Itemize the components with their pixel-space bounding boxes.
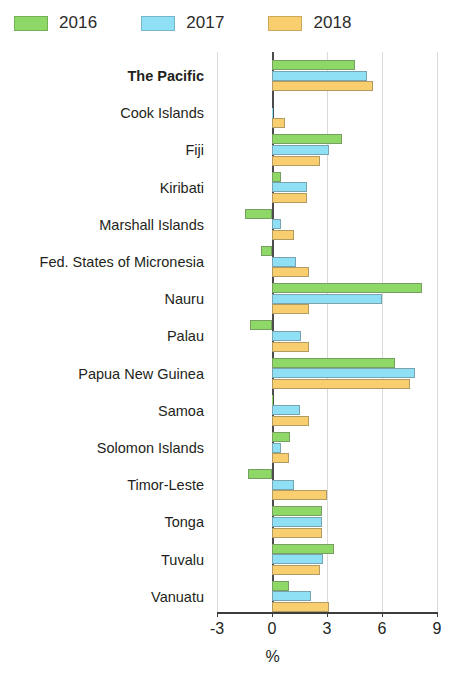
plot-area: The PacificCook IslandsFijiKiribatiMarsh… [0, 52, 449, 620]
legend-item-2017[interactable]: 2017 [141, 13, 224, 33]
category-label: Palau [0, 328, 210, 344]
category-axis-labels: The PacificCook IslandsFijiKiribatiMarsh… [0, 52, 210, 612]
bar-2016[interactable] [272, 283, 422, 293]
bar-2016[interactable] [250, 320, 272, 330]
bar-2017[interactable] [272, 71, 367, 81]
bar-2017[interactable] [272, 591, 311, 601]
legend-item-label: 2018 [313, 13, 351, 33]
bar-group [217, 320, 437, 352]
category-label: Samoa [0, 403, 210, 419]
bar-group [217, 97, 437, 129]
category-label: Solomon Islands [0, 440, 210, 456]
bar-group [217, 283, 437, 315]
bar-2018[interactable] [272, 490, 327, 500]
bar-2017[interactable] [272, 517, 322, 527]
bar-group [217, 134, 437, 166]
legend-swatch-icon [268, 16, 302, 31]
bar-group [217, 581, 437, 613]
bar-2018[interactable] [272, 379, 410, 389]
category-label: Tonga [0, 514, 210, 530]
bar-2018[interactable] [272, 156, 320, 166]
category-label: Marshall Islands [0, 217, 210, 233]
bar-2016[interactable] [261, 246, 272, 256]
x-tick-label: 0 [268, 620, 277, 638]
x-tick-label: -3 [210, 620, 224, 638]
category-label: The Pacific [0, 68, 210, 84]
chart-container: 201620172018 The PacificCook IslandsFiji… [0, 0, 449, 674]
legend-swatch-icon [141, 16, 175, 31]
category-label: Kiribati [0, 180, 210, 196]
bar-group [217, 469, 437, 501]
x-tick-label: 3 [323, 620, 332, 638]
bar-2017[interactable] [272, 219, 281, 229]
bar-2017[interactable] [272, 108, 273, 118]
legend-item-label: 2017 [186, 13, 224, 33]
bar-group [217, 432, 437, 464]
x-tick-6 [382, 612, 383, 617]
bar-2018[interactable] [272, 602, 329, 612]
bar-2017[interactable] [272, 294, 382, 304]
bar-2017[interactable] [272, 182, 307, 192]
bar-2018[interactable] [272, 81, 373, 91]
x-tick-3 [327, 612, 328, 617]
bar-2017[interactable] [272, 331, 301, 341]
gridline-9 [437, 52, 438, 612]
bar-2016[interactable] [248, 469, 272, 479]
bars-area [217, 52, 437, 612]
bar-2018[interactable] [272, 267, 309, 277]
bar-2017[interactable] [272, 443, 281, 453]
category-label: Papua New Guinea [0, 366, 210, 382]
x-tick-label: 6 [378, 620, 387, 638]
bar-2017[interactable] [272, 405, 300, 415]
category-label: Nauru [0, 291, 210, 307]
category-label: Fed. States of Micronesia [0, 254, 210, 270]
bar-2017[interactable] [272, 257, 296, 267]
bar-2018[interactable] [272, 118, 285, 128]
bar-2016[interactable] [245, 209, 273, 219]
category-label: Fiji [0, 142, 210, 158]
bar-2017[interactable] [272, 480, 294, 490]
bar-group [217, 544, 437, 576]
x-axis-title: % [0, 648, 449, 666]
x-axis-title-text: % [265, 648, 279, 666]
x-tick-9 [437, 612, 438, 617]
legend-swatch-icon [14, 16, 48, 31]
legend-item-label: 2016 [59, 13, 97, 33]
category-label: Vanuatu [0, 589, 210, 605]
bar-2018[interactable] [272, 416, 309, 426]
legend-item-2018[interactable]: 2018 [268, 13, 351, 33]
bar-2018[interactable] [272, 230, 294, 240]
bar-2016[interactable] [272, 172, 281, 182]
bar-2016[interactable] [272, 395, 273, 405]
bar-2016[interactable] [272, 358, 395, 368]
bar-2018[interactable] [272, 304, 309, 314]
bar-2018[interactable] [272, 528, 322, 538]
bar-2016[interactable] [272, 60, 355, 70]
bar-2016[interactable] [272, 544, 334, 554]
legend-item-2016[interactable]: 2016 [14, 13, 97, 33]
x-tick--3 [217, 612, 218, 617]
bar-group [217, 506, 437, 538]
bar-group [217, 246, 437, 278]
bar-2018[interactable] [272, 342, 309, 352]
chart-legend: 201620172018 [0, 0, 449, 46]
bar-2016[interactable] [272, 506, 322, 516]
category-label: Timor-Leste [0, 477, 210, 493]
x-tick-label: 9 [433, 620, 442, 638]
bar-2018[interactable] [272, 193, 307, 203]
bar-2017[interactable] [272, 145, 329, 155]
bar-group [217, 60, 437, 92]
bar-group [217, 395, 437, 427]
bar-2017[interactable] [272, 368, 415, 378]
bar-group [217, 172, 437, 204]
x-tick-0 [272, 612, 273, 617]
bar-group [217, 209, 437, 241]
bar-2018[interactable] [272, 565, 320, 575]
bar-2016[interactable] [272, 432, 290, 442]
bar-2016[interactable] [272, 134, 342, 144]
bar-group [217, 358, 437, 390]
bar-2017[interactable] [272, 554, 323, 564]
bar-2016[interactable] [272, 581, 289, 591]
bar-2018[interactable] [272, 453, 289, 463]
category-label: Tuvalu [0, 552, 210, 568]
